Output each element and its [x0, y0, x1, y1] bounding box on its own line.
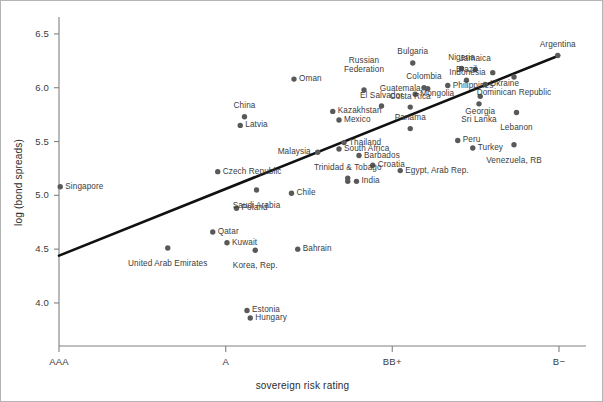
- data-point: [511, 142, 516, 147]
- data-point: [254, 187, 259, 192]
- data-point-label: Jamaica: [415, 54, 535, 64]
- data-point-label: Malaysia: [278, 147, 311, 157]
- data-point-label: Bahrain: [303, 244, 332, 254]
- x-axis-tick-label: A: [196, 356, 256, 367]
- data-point-label: Venezuela, RB: [454, 156, 574, 166]
- data-point: [58, 184, 63, 189]
- data-point: [408, 126, 413, 131]
- data-point-label: Croatia: [378, 160, 405, 170]
- data-point: [248, 315, 253, 320]
- y-axis-tick-label: 4.5: [11, 243, 49, 254]
- data-point-label: Qatar: [218, 227, 239, 237]
- data-point-label: Saudi Arabia: [197, 201, 317, 211]
- data-point: [336, 146, 341, 151]
- data-point: [289, 190, 294, 195]
- x-axis-tick-label: B−: [529, 356, 589, 367]
- scatter-plot-figure: SingaporeUnited Arab EmiratesQatarKuwait…: [0, 0, 603, 402]
- data-point-label: Argentina: [498, 40, 603, 50]
- data-point-label: Czech Republic: [223, 167, 282, 177]
- data-point-label: Singapore: [65, 182, 103, 192]
- data-point: [445, 83, 450, 88]
- data-point-label: China: [185, 101, 305, 111]
- data-point: [408, 104, 413, 109]
- data-point: [253, 248, 258, 253]
- data-point: [470, 145, 475, 150]
- y-axis-tick-label: 6.5: [11, 28, 49, 39]
- y-axis-tick-label: 4.0: [11, 297, 49, 308]
- data-point-label: Dominican Republic: [454, 88, 574, 98]
- data-point-label: Korea, Rep.: [195, 261, 315, 271]
- data-point-label: Lebanon: [457, 123, 577, 133]
- data-point: [455, 138, 460, 143]
- data-point: [555, 53, 560, 58]
- data-point-label: India: [362, 176, 380, 186]
- data-point: [291, 76, 296, 81]
- data-point: [356, 153, 361, 158]
- data-point: [224, 240, 229, 245]
- y-axis-tick-label: 6.0: [11, 82, 49, 93]
- data-point: [244, 308, 249, 313]
- data-point-label: Turkey: [478, 143, 503, 153]
- data-point-label: Chile: [297, 188, 316, 198]
- data-point: [210, 229, 215, 234]
- data-point-label: Barbados: [364, 151, 400, 161]
- data-point: [354, 179, 359, 184]
- data-point: [238, 123, 243, 128]
- data-point: [476, 101, 481, 106]
- x-axis-tick-label: BB+: [362, 356, 422, 367]
- data-point: [330, 109, 335, 114]
- data-point: [345, 179, 350, 184]
- x-axis-title: sovereign risk rating: [1, 380, 603, 391]
- data-point: [242, 114, 247, 119]
- data-point-label: Indonesia: [449, 68, 485, 78]
- data-point-label: Egypt, Arab Rep.: [405, 166, 469, 176]
- data-point: [295, 246, 300, 251]
- y-axis-title: log (bond spreads): [13, 139, 24, 226]
- data-point: [336, 117, 341, 122]
- data-point-label: Guatemala: [380, 84, 421, 94]
- data-point-label: Oman: [299, 74, 322, 84]
- data-point: [315, 150, 320, 155]
- data-point-label: Mongolia: [420, 89, 454, 99]
- data-point-label: Latvia: [245, 120, 267, 130]
- data-point-label: Hungary: [255, 313, 287, 323]
- x-axis-tick-label: AAA: [29, 356, 89, 367]
- data-point: [215, 169, 220, 174]
- data-point: [165, 245, 170, 250]
- data-point-label: Kuwait: [232, 238, 257, 248]
